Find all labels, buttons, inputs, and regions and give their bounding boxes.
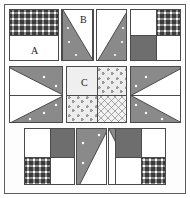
quilt-pattern-figure: A B	[0, 0, 190, 198]
label-c: C	[81, 78, 88, 88]
patch-divider-vertical	[141, 129, 142, 184]
patch-checker-top	[10, 10, 58, 35]
patch-solid-gray-top-left	[116, 129, 141, 157]
narrow-triangle-bottom-left-svg	[77, 129, 107, 185]
block-middle-left-arrow-right	[9, 66, 63, 123]
patch-solid-gray-bottom-left	[131, 35, 156, 60]
label-a: A	[31, 46, 38, 56]
patch-triangle-speckle-top-right	[97, 67, 127, 95]
patch-divider-vertical	[156, 10, 157, 60]
patch-divider-vertical	[97, 67, 98, 122]
patch-divider-horizontal	[10, 35, 58, 36]
arrow-shape-wrap	[10, 67, 62, 122]
block-top-center-left: B	[62, 9, 93, 61]
block-top-right-corner	[130, 9, 181, 61]
narrow-triangle-left-svg	[63, 10, 93, 61]
arrow-left-svg	[131, 67, 181, 123]
patch-white-bottom-left	[116, 157, 141, 185]
block-bottom-right-corner	[115, 128, 166, 185]
label-b: B	[80, 15, 87, 25]
triangle-shape-wrap	[97, 10, 126, 60]
block-center-four-patch: C	[66, 66, 127, 123]
arrow-right-svg	[10, 67, 63, 123]
block-middle-right-arrow-left	[130, 66, 181, 123]
patch-solid-gray-top-right	[50, 129, 75, 157]
block-bottom-left-corner	[24, 128, 75, 185]
patch-checker-bottom-right	[141, 157, 166, 185]
patch-checker-bottom-left	[25, 157, 50, 185]
narrow-triangle-right-svg	[97, 10, 127, 61]
patch-white-top-right	[141, 129, 166, 157]
patch-divider-vertical	[50, 129, 51, 184]
patch-white-top-left	[131, 10, 156, 35]
triangle-shape-wrap	[77, 129, 106, 184]
patch-white-bottom-right	[50, 157, 75, 185]
triangle-shape-wrap	[63, 10, 92, 60]
patch-lattice-bottom-right	[97, 95, 127, 123]
patch-white-top-left	[25, 129, 50, 157]
block-top-left-corner: A	[9, 9, 59, 61]
arrow-shape-wrap	[131, 67, 180, 122]
patch-checker-top-right	[156, 10, 181, 35]
block-bottom-center-left	[76, 128, 107, 185]
patch-white-bottom-right	[156, 35, 181, 60]
patch-triangle-speckle-bottom-left	[67, 95, 97, 123]
block-top-center-right	[96, 9, 127, 61]
